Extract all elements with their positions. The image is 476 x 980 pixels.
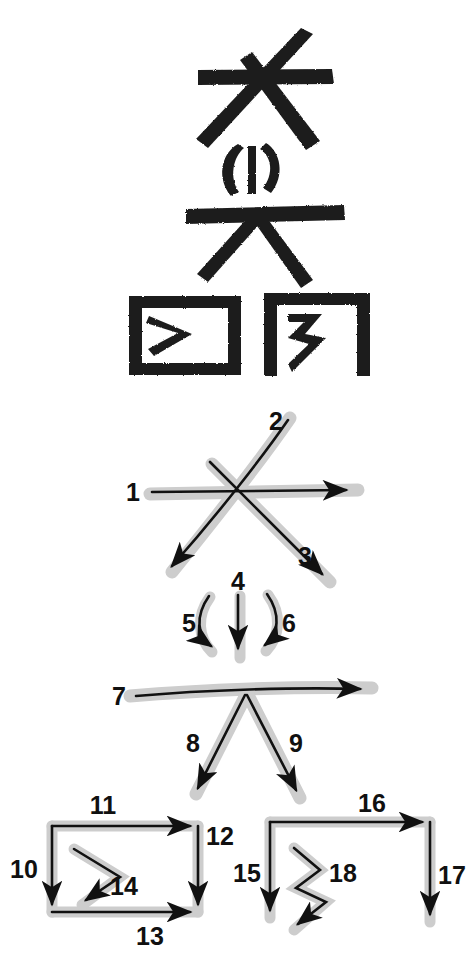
stroke-label-8: 8 [186,729,200,757]
top-cross-component [196,28,334,150]
stroke-label-17: 17 [438,861,466,889]
stroke-label-14: 14 [110,872,138,900]
stroke-label-4: 4 [231,567,245,595]
stroke-steps-svg: 1 2 3 4 5 6 [0,400,476,980]
stroke-label-1: 1 [126,478,140,506]
specimen-stroke-diagonal-downright-mid [250,210,313,288]
stroke-label-2: 2 [269,407,283,435]
group-parenthesis: 4 5 6 [182,567,296,658]
bottom-right-bracket-component [264,293,370,376]
stroke-steps-panel: 1 2 3 4 5 6 [0,400,476,980]
stroke-label-11: 11 [90,791,117,819]
specimen-bracket-inner-zigzag [288,314,326,372]
middle-parenthesis-component [222,143,279,196]
stroke-label-5: 5 [182,609,196,637]
stroke-label-16: 16 [358,789,386,817]
stroke-label-13: 13 [136,922,164,950]
specimen-stroke-left-curve [222,144,244,196]
stroke-label-18: 18 [329,859,357,887]
specimen-stroke-right-curve [260,143,280,193]
stroke-label-7: 7 [112,682,126,710]
stroke-label-6: 6 [282,609,296,637]
stroke-label-12: 12 [206,822,234,850]
stroke-label-3: 3 [298,542,312,570]
specimen-bracket-outline [264,293,370,376]
specimen-ink [129,28,370,376]
stroke-label-9: 9 [289,729,303,757]
bottom-left-box-component [129,296,241,375]
specimen-box-inner-chevron [146,316,192,356]
character-specimen-svg [0,0,476,400]
group-cross-top: 1 2 3 [126,407,358,582]
stroke-label-10: 10 [10,855,38,883]
stroke-path-8 [198,695,245,788]
middle-cross-component [186,205,345,288]
character-specimen-panel [0,0,476,400]
group-right-bracket: 15 16 17 18 [233,789,466,930]
group-left-box: 10 11 12 13 14 [10,791,234,950]
specimen-stroke-center-tick [248,146,256,194]
stroke-order-page: 1 2 3 4 5 6 [0,0,476,980]
group-cross-middle: 7 8 9 [112,682,372,798]
stroke-label-15: 15 [233,859,261,887]
